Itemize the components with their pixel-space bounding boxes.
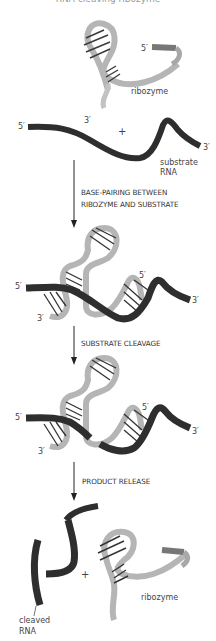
- arrow-step1: [71, 160, 77, 228]
- step1-label-line2: RIBOZYME AND SUBSTRATE: [81, 200, 178, 210]
- step1-label-line1: BASE-PAIRING BETWEEN: [81, 188, 167, 198]
- ribozyme-cleavage-diagram: [0, 0, 216, 641]
- stage2-right-3prime-label: 3′: [192, 296, 199, 306]
- stage1-ribozyme-3prime-label: 3′: [84, 116, 91, 126]
- stage1-substrate-label-line1: substrate: [160, 158, 198, 168]
- stage3-right-3prime-label: 3′: [192, 427, 199, 437]
- stage1-substrate-rna: [28, 121, 200, 159]
- stage4-cleaved-label-line1: cleaved: [19, 616, 50, 626]
- stage4-ribozyme-label: ribozyme: [141, 593, 178, 603]
- stage3-left-3prime-label: 3′: [38, 447, 45, 457]
- arrow-step3: [71, 462, 77, 501]
- step3-label: PRODUCT RELEASE: [82, 477, 150, 487]
- stage1-substrate-5prime-label: 5′: [18, 122, 25, 132]
- stage1-substrate-label-line2: RNA: [160, 168, 177, 178]
- stage2-complex: [26, 228, 190, 319]
- stage4-cleaved-label-line2: RNA: [19, 627, 36, 637]
- stage3-complex: [26, 358, 190, 451]
- stage4-cleaved-rna: [34, 506, 98, 616]
- stage3-inner-5prime-label: 5′: [142, 403, 149, 413]
- stage2-left-5prime-label: 5′: [15, 282, 22, 292]
- stage1-substrate-3prime-label: 3′: [203, 143, 210, 153]
- stage1-ribozyme-label: ribozyme: [131, 87, 168, 97]
- stage3-left-5prime-label: 5′: [15, 413, 22, 423]
- arrow-step2: [71, 326, 77, 365]
- stage2-left-3prime-label: 3′: [37, 314, 44, 324]
- stage4-plus-sign: +: [81, 570, 89, 580]
- step2-label: SUBSTRATE CLEAVAGE: [81, 339, 160, 349]
- stage1-plus-sign: +: [118, 127, 126, 137]
- stage4-ribozyme: [98, 532, 188, 620]
- stage1-ribozyme-5prime-label: 5′: [141, 44, 148, 54]
- stage2-inner-5prime-label: 5′: [139, 271, 146, 281]
